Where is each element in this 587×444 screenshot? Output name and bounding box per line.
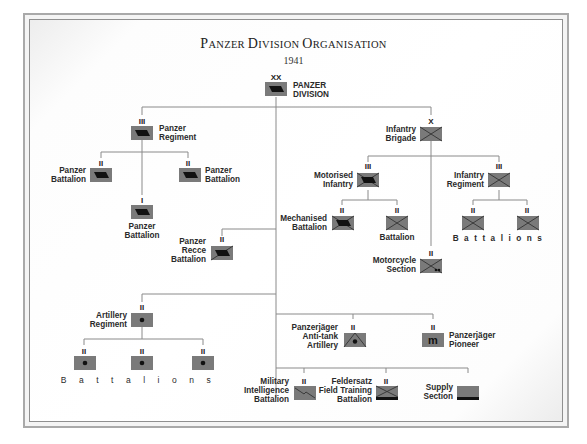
unit-mechanised-battalion: II Mechanised Battalion [280,206,354,232]
unit-military-intelligence: II Military Intelligence Battalion [244,377,316,404]
motorcycle-infantry-icon [420,259,442,273]
unit-label-line-2: Battalion [205,175,240,184]
armour-icon [90,168,112,182]
unit-label-line-2: Battalion [51,175,86,184]
armour-icon [265,82,287,96]
connector-lines [84,97,527,398]
echelon-mark: II [140,347,144,356]
echelon-mark: II [82,347,86,356]
unit-artillery-battalion-3: II [192,347,214,370]
unit-panzer-battalion-left: II Panzer Battalion [51,159,112,184]
unit-label-line-1: Mechanised [280,214,327,223]
echelon-mark: XX [271,73,282,82]
unit-supply-section: Supply Section [423,383,479,401]
unit-motorised-infantry: III Motorised Infantry [314,162,379,189]
unit-motorcycle-section: II Motorcycle Section [373,249,442,274]
echelon-mark: II [220,235,224,244]
unit-label-line-1: Motorcycle [373,256,417,265]
echelon-mark: II [302,377,306,386]
unit-label-line-2: Intelligence [244,386,289,395]
unit-label-line-1: Panzer [205,166,233,175]
infantry-icon [462,216,484,230]
echelon-mark: III [365,162,372,171]
artillery-icon [131,356,153,370]
unit-label-line-2: Infantry [323,180,353,189]
echelon-mark: II [395,206,399,215]
echelon-mark: II [340,206,344,215]
unit-label-line-3: Battalion [171,255,206,264]
unit-recce-battalion: II Panzer Recce Battalion [171,235,233,264]
armour-icon [131,126,153,140]
unit-label-line-1: Artillery [96,311,127,320]
armour-icon [131,205,153,219]
echelon-mark: II [351,323,355,332]
unit-label-line-2: Section [386,265,416,274]
unit-label-line-2: Brigade [386,134,417,143]
unit-infantry-regiment: III Infantry Regiment [447,162,510,189]
unit-label-line-1: Panzer [129,222,157,231]
unit-label-line-2: Section [423,392,453,401]
echelon-mark: II [186,159,190,168]
unit-label-line-3: Artillery [307,341,338,350]
unit-label-line-1: Panzer [159,124,187,133]
unit-label-line-3: Battalion [254,395,289,404]
unit-label-line-1: Battalion [379,233,414,242]
pioneer-glyph: m [428,334,438,346]
unit-label-line-2: Regiment [90,320,128,329]
unit-infantry-brigade: X Infantry Brigade [386,117,442,143]
unit-label-line-1: Panzer [59,166,87,175]
echelon-mark: II [429,249,433,258]
unit-label-line-1: Infantry [454,171,484,180]
unit-label-line-1: Feldersatz [332,377,373,386]
echelon-mark: II [201,347,205,356]
unit-label-line-1: PANZER [293,81,326,90]
unit-infantry-battalion-2: II [517,206,539,230]
echelon-mark: II [431,323,435,332]
org-chart: XX PANZER DIVISION III Panzer Regiment I… [0,0,587,444]
unit-label-line-2: Battalion [292,223,327,232]
infantry-icon [517,216,539,230]
infantry-battalions-label: Battalions [453,234,548,243]
echelon-mark: II [471,206,475,215]
unit-label-line-2: Field Training [319,386,372,395]
mechanised-infantry-icon [332,216,354,230]
echelon-mark: II [384,377,388,386]
unit-artillery-regiment: II Artillery Regiment [90,303,153,329]
unit-label-line-1: Panzerjäger [449,331,496,340]
unit-battalion: II Battalion [379,206,414,242]
unit-infantry-battalion-1: II [462,206,484,230]
unit-label-line-2: Regiment [159,133,197,142]
armoured-recce-icon [211,246,233,260]
unit-label-line-2: Anti-tank [303,332,339,341]
unit-panzer-division: XX PANZER DIVISION [265,73,329,99]
unit-label-line-2: Recce [182,246,207,255]
artillery-icon [192,356,214,370]
armour-icon [179,168,201,182]
unit-label-line-1: Military [260,377,289,386]
unit-label-line-1: Motorised [314,171,353,180]
infantry-icon [386,216,408,230]
echelon-mark: II [525,206,529,215]
echelon-mark: III [139,117,146,126]
unit-label-line-1: Infantry [386,125,416,134]
unit-label-line-2: Pioneer [449,340,480,349]
echelon-mark: II [140,303,144,312]
unit-panzerjager-artillery: II Panzerjäger Anti-tank Artillery [292,323,366,350]
unit-label-line-1: Panzer [179,237,207,246]
artillery-icon [74,356,96,370]
artillery-battalions-label: Battalions [61,375,223,385]
anti-tank-icon [344,333,366,347]
unit-label-line-2: DIVISION [293,90,329,99]
unit-label-line-1: Supply [426,383,454,392]
unit-panzer-battalion-light: I Panzer Battalion [124,196,159,240]
unit-label-line-1: Panzerjäger [292,323,339,332]
artillery-icon [131,313,153,327]
echelon-mark: I [141,196,143,205]
unit-label-line-3: Battalion [337,395,372,404]
infantry-icon [488,173,510,187]
infantry-icon [420,127,442,141]
supply-icon [457,386,479,400]
signals-icon [294,386,316,400]
unit-artillery-battalion-1: II [74,347,96,370]
unit-panzer-battalion-right: II Panzer Battalion [179,159,240,184]
